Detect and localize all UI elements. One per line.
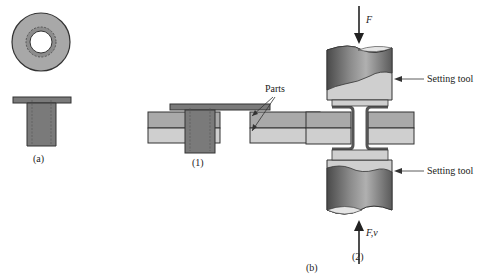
- step2-label: (2): [352, 251, 364, 262]
- step1-assembly: [148, 97, 320, 153]
- top-force-label: F: [366, 14, 372, 25]
- rivet-side-view: [13, 97, 71, 146]
- diagram-canvas: [0, 0, 479, 275]
- rivet-top-view: [12, 13, 70, 71]
- step1-label: (1): [192, 157, 204, 168]
- panel-a-label: (a): [33, 153, 44, 164]
- parts-callout: Parts: [265, 83, 285, 94]
- force-arrow-down: [354, 33, 364, 44]
- bottom-tool-label: Setting tool: [427, 165, 473, 176]
- bottom-force-label: F,v: [366, 227, 378, 238]
- step2-assembly: [306, 6, 424, 264]
- top-tool-label: Setting tool: [427, 73, 473, 84]
- panel-b-label: (b): [306, 262, 318, 273]
- force-arrow-up: [354, 220, 364, 231]
